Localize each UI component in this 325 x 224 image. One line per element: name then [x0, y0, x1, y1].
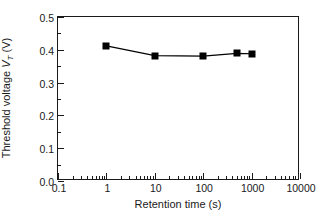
data-point-marker [151, 52, 158, 59]
x-tick-label: 10 [150, 183, 162, 194]
series-line [58, 17, 300, 181]
y-tick-label: 0.4 [39, 46, 54, 57]
y-axis-title: Threshold voltage VT (V) [1, 38, 15, 158]
y-axis-title-post: (V) [0, 38, 12, 56]
data-series-layer [58, 17, 298, 179]
y-tick-label: 0.5 [39, 13, 54, 24]
x-tick-label: 0.1 [52, 183, 67, 194]
chart-figure: 0.00.10.20.30.40.5 0.1110100100010000 Re… [0, 0, 325, 224]
x-tick-major: 10000 [300, 173, 301, 179]
x-tick-label: 1 [104, 183, 110, 194]
y-axis-title-pre: Threshold voltage [0, 68, 12, 159]
y-tick-label: 0.1 [39, 144, 54, 155]
x-axis-title: Retention time (s) [57, 199, 299, 210]
data-point-marker [200, 53, 207, 60]
y-tick-label: 0.3 [39, 78, 54, 89]
x-tick-label: 100 [195, 183, 213, 194]
y-tick-label: 0.2 [39, 111, 54, 122]
x-tick-label: 1000 [241, 183, 264, 194]
data-point-marker [234, 50, 241, 57]
x-tick-label: 10000 [286, 183, 315, 194]
y-axis-title-subscript: T [6, 56, 15, 61]
data-point-marker [248, 50, 255, 57]
data-point-marker [103, 42, 110, 49]
y-axis-title-symbol: V [0, 60, 12, 67]
plot-area: 0.00.10.20.30.40.5 0.1110100100010000 [57, 16, 299, 180]
